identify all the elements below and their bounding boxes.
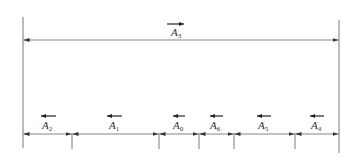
label-a2: A2 xyxy=(41,119,53,133)
label-a4: A4 xyxy=(310,119,322,133)
label-a0: A0 xyxy=(172,119,184,133)
label-a6: A6 xyxy=(209,119,221,133)
dimension-chain-diagram: A3 A2 A1 A0 A6 A5 A4 xyxy=(0,0,357,160)
label-a1: A1 xyxy=(108,119,120,133)
label-a3: A3 xyxy=(170,26,182,40)
label-a5: A5 xyxy=(257,119,269,133)
